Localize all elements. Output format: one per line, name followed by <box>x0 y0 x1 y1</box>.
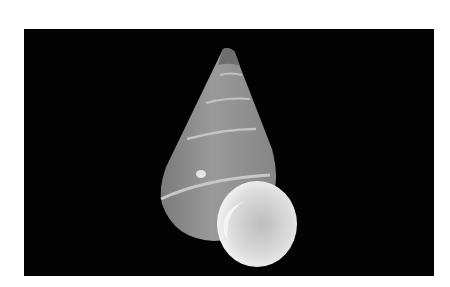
shell-illustration <box>24 29 434 276</box>
shell-highlight <box>196 170 206 178</box>
shell-aperture <box>217 181 297 267</box>
shell-apex <box>218 48 240 66</box>
shell-photo <box>24 29 434 276</box>
